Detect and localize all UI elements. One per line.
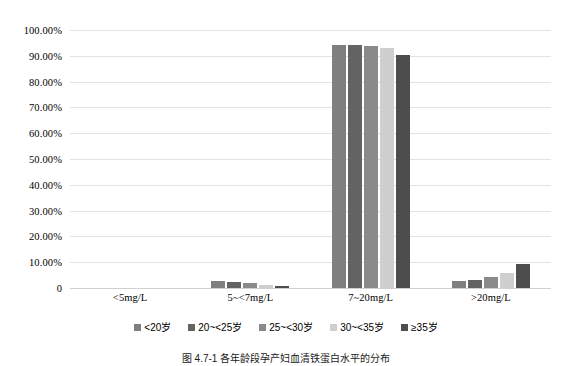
- bar: [275, 286, 289, 288]
- x-axis-tick-label: <5mg/L: [70, 291, 190, 311]
- legend-label: 30~<35岁: [340, 322, 384, 333]
- bar: [380, 48, 394, 288]
- legend-item[interactable]: 30~<35岁: [330, 322, 384, 333]
- figure-caption: 图 4.7-1 各年龄段孕产妇血清铁蛋白水平的分布: [0, 352, 572, 365]
- legend-swatch-icon: [259, 324, 266, 331]
- legend-swatch-icon: [188, 324, 195, 331]
- legend-item[interactable]: 20~<25岁: [188, 322, 242, 333]
- y-axis-tick-label: 20.00%: [29, 231, 62, 242]
- legend-item[interactable]: <20岁: [134, 322, 171, 333]
- x-axis-tick-label: 7~20mg/L: [311, 291, 431, 311]
- bar-group: [190, 30, 310, 288]
- bar: [364, 46, 378, 288]
- bar-group: [431, 30, 551, 288]
- y-axis-tick-label: 90.00%: [29, 50, 62, 61]
- legend-swatch-icon: [134, 324, 141, 331]
- bar: [396, 55, 410, 288]
- bar: [259, 285, 273, 288]
- axis-baseline: [70, 288, 551, 289]
- y-axis-tick-label: 50.00%: [29, 154, 62, 165]
- bar: [452, 281, 466, 288]
- legend-label: <20岁: [144, 322, 171, 333]
- bar: [468, 280, 482, 289]
- bar: [500, 273, 514, 288]
- x-axis: <5mg/L5~<7mg/L7~20mg/L>20mg/L: [70, 291, 551, 311]
- bar-group: [70, 30, 190, 288]
- bar: [332, 45, 346, 288]
- legend-swatch-icon: [330, 324, 337, 331]
- y-axis-tick-label: 60.00%: [29, 128, 62, 139]
- chart-legend: <20岁20~<25岁25~<30岁30~<35岁≥35岁: [0, 322, 572, 333]
- bar: [484, 277, 498, 288]
- x-axis-tick-label: >20mg/L: [431, 291, 551, 311]
- bar: [211, 281, 225, 288]
- legend-label: 20~<25岁: [198, 322, 242, 333]
- bar: [227, 282, 241, 288]
- bars-layer: [70, 30, 551, 288]
- chart-figure: 010.00%20.00%30.00%40.00%50.00%60.00%70.…: [0, 0, 572, 366]
- legend-item[interactable]: ≥35岁: [401, 322, 438, 333]
- x-axis-tick-label: 5~<7mg/L: [190, 291, 310, 311]
- y-axis-tick-label: 70.00%: [29, 102, 62, 113]
- legend-label: ≥35岁: [411, 322, 438, 333]
- bar: [516, 264, 530, 288]
- bar-group: [311, 30, 431, 288]
- y-axis: 010.00%20.00%30.00%40.00%50.00%60.00%70.…: [0, 30, 66, 288]
- y-axis-tick-label: 30.00%: [29, 205, 62, 216]
- bar: [243, 283, 257, 288]
- y-axis-tick-label: 40.00%: [29, 179, 62, 190]
- legend-label: 25~<30岁: [269, 322, 313, 333]
- y-axis-tick-label: 100.00%: [24, 25, 62, 36]
- y-axis-tick-label: 10.00%: [29, 257, 62, 268]
- y-axis-tick-label: 0: [57, 283, 62, 294]
- legend-item[interactable]: 25~<30岁: [259, 322, 313, 333]
- y-axis-tick-label: 80.00%: [29, 76, 62, 87]
- legend-swatch-icon: [401, 324, 408, 331]
- bar: [348, 45, 362, 288]
